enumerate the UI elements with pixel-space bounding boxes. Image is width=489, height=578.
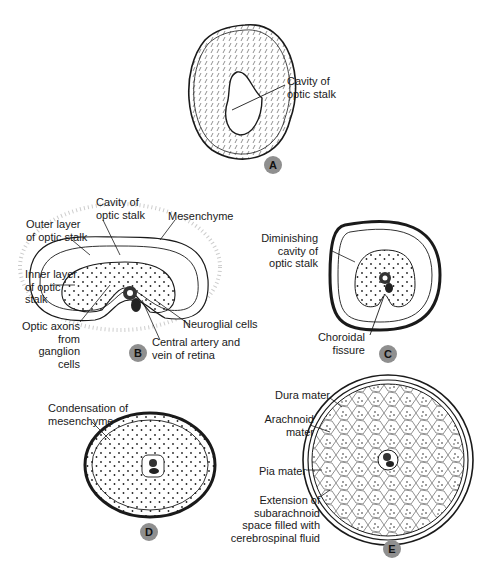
label-b-outer-layer: Outer layer of optic stalk <box>26 218 87 243</box>
panel-a-drawing <box>189 25 296 159</box>
panel-d-drawing <box>85 413 215 517</box>
label-b-cavity: Cavity of optic stalk <box>96 196 145 221</box>
panel-badge-c: C <box>379 345 397 363</box>
panel-badge-e: E <box>383 540 401 558</box>
label-c-choroidal-fissure: Choroidal fissure <box>305 331 365 356</box>
label-b-mesenchyme: Mesenchyme <box>168 210 233 223</box>
panel-c-drawing <box>330 222 440 335</box>
label-b-central-artery: Central artery and vein of retina <box>152 336 240 361</box>
label-c-diminishing-cavity: Diminishing cavity of optic stalk <box>248 232 318 270</box>
label-b-optic-axons: Optic axons from ganglion cells <box>20 320 80 370</box>
panel-badge-a: A <box>264 156 282 174</box>
label-b-inner-layer: Inner layer of optic stalk <box>25 268 77 306</box>
label-e-dura: Dura mater <box>258 389 330 402</box>
label-d-condensation: Condensation of mesenchyme <box>48 402 128 427</box>
panel-badge-b: B <box>129 344 147 362</box>
label-e-pia: Pia mater <box>258 465 306 478</box>
label-e-arachnoid: Arachnoid mater <box>258 413 314 438</box>
label-b-neuroglial: Neuroglial cells <box>183 318 258 331</box>
label-e-extension: Extension of subarachnoid space filled w… <box>226 494 320 544</box>
panel-badge-d: D <box>140 523 158 541</box>
label-a-cavity: Cavity of optic stalk <box>287 75 336 100</box>
